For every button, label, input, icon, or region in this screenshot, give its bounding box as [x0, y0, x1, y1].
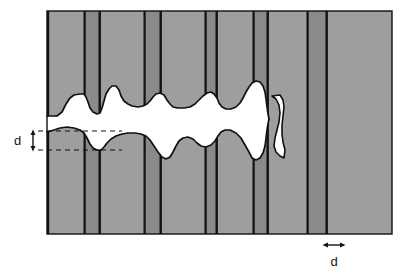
- spacing-label: d: [14, 133, 21, 148]
- figure-container: d d: [0, 0, 402, 278]
- boundary-line: [326, 11, 328, 234]
- lamella-band: [308, 11, 326, 234]
- width-label: d: [330, 254, 337, 269]
- boundary-line: [307, 11, 309, 234]
- material-block: [47, 11, 392, 234]
- lamellar-fracture-diagram: d d: [0, 0, 402, 278]
